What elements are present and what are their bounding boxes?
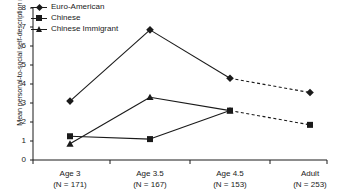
series-2-segment-1 <box>150 97 230 110</box>
legend-item-1[interactable]: Chinese <box>31 13 118 23</box>
x-axis-group-n-2: (N = 153) <box>190 179 270 190</box>
legend-label-2: Chinese Immigrant <box>51 24 118 34</box>
series-1-segment-2 <box>230 111 310 125</box>
x-axis-group-2: Age 4.5(N = 153) <box>190 168 270 190</box>
y-axis-tick-7: 7 <box>14 23 26 31</box>
series-0-segment-1 <box>150 30 230 78</box>
series-0-marker-2 <box>226 75 234 83</box>
x-axis-group-n-3: (N = 253) <box>270 179 337 190</box>
legend-marker-triangle-icon <box>31 24 47 34</box>
x-axis-group-name-1: Age 3.5 <box>136 169 164 178</box>
legend-marker-diamond-icon <box>31 2 47 12</box>
x-axis-group-name-0: Age 3 <box>60 169 81 178</box>
x-axis-group-0: Age 3(N = 171) <box>30 168 110 190</box>
legend-diamond-marker <box>35 3 42 10</box>
x-axis-group-n-1: (N = 167) <box>110 179 190 190</box>
series-2-marker-0 <box>66 140 73 146</box>
y-axis-tick-0: 0 <box>14 156 26 164</box>
y-axis-tick-3: 3 <box>14 99 26 107</box>
x-axis-group-1: Age 3.5(N = 167) <box>110 168 190 190</box>
series-1-segment-1 <box>150 111 230 140</box>
legend-item-0[interactable]: Euro-American <box>31 2 118 12</box>
legend-label-1: Chinese <box>51 13 80 23</box>
legend-label-0: Euro-American <box>51 2 104 12</box>
y-axis-tick-5: 5 <box>14 61 26 69</box>
y-axis-tick-6: 6 <box>14 42 26 50</box>
series-1-marker-3 <box>307 122 313 128</box>
legend-triangle-marker <box>36 26 42 32</box>
legend-marker-square-icon <box>31 13 47 23</box>
series-2-segment-0 <box>70 97 150 144</box>
y-axis-tick-2: 2 <box>14 118 26 126</box>
y-axis-tick-8: 8 <box>14 4 26 12</box>
series-1-marker-1 <box>147 136 153 142</box>
y-axis-tick-1: 1 <box>14 137 26 145</box>
y-axis-tick-4: 4 <box>14 80 26 88</box>
x-axis-group-3: Adult(N = 253) <box>270 168 337 190</box>
legend-square-marker <box>36 15 42 21</box>
y-axis-tick-labels: 876543210 <box>12 0 26 195</box>
chart-legend: Euro-AmericanChineseChinese Immigrant <box>31 2 118 35</box>
x-axis-group-name-3: Adult <box>301 169 319 178</box>
x-axis-group-name-2: Age 4.5 <box>216 169 244 178</box>
series-1-marker-0 <box>67 133 73 139</box>
legend-item-2[interactable]: Chinese Immigrant <box>31 24 118 34</box>
x-axis-group-n-0: (N = 171) <box>30 179 110 190</box>
series-0-segment-0 <box>70 30 150 101</box>
series-2-marker-1 <box>146 94 153 100</box>
line-chart: Mean personal-to-social self-description… <box>0 0 337 195</box>
series-0-segment-2 <box>230 78 310 92</box>
series-0-marker-3 <box>306 89 314 97</box>
